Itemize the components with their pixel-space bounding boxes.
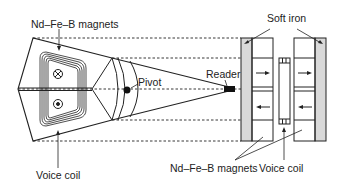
label-voice-coil-left: Voice coil bbox=[36, 170, 80, 181]
label-pivot: Pivot bbox=[138, 77, 161, 88]
label-soft-iron: Soft iron bbox=[267, 13, 306, 24]
label-reader: Reader bbox=[206, 69, 240, 80]
leader-lines bbox=[56, 29, 323, 168]
actuator-diagram: Nd–Fe–B magnets Pivot Reader Soft iron V… bbox=[0, 0, 345, 188]
voice-coil-right bbox=[279, 58, 290, 124]
magnetization-arrows bbox=[256, 71, 312, 109]
current-into-page-symbol bbox=[54, 70, 63, 79]
reader-head bbox=[224, 86, 235, 92]
magnets-right bbox=[294, 38, 315, 141]
label-magnets-top: Nd–Fe–B magnets bbox=[31, 19, 119, 30]
label-voice-coil-right: Voice coil bbox=[259, 163, 303, 174]
soft-iron-left bbox=[241, 38, 252, 141]
current-out-of-page-symbol bbox=[54, 100, 63, 109]
soft-iron-right bbox=[315, 38, 326, 141]
label-magnets-bottom: Nd–Fe–B magnets bbox=[170, 163, 258, 174]
magnets-left bbox=[252, 38, 273, 141]
pivot-dot bbox=[124, 87, 131, 94]
